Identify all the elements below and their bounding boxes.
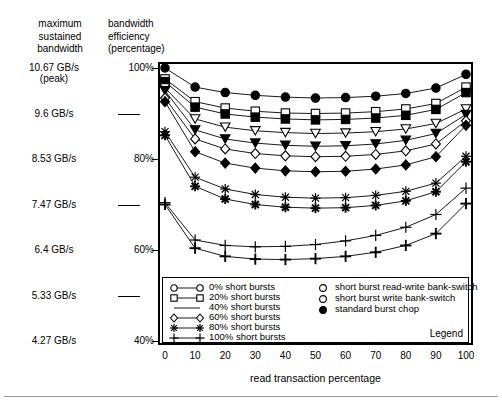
legend: 0% short bursts20% short bursts40% short… [162, 277, 469, 343]
x-axis-tick-label: 0 [150, 350, 180, 361]
series-marker [341, 93, 349, 101]
series-marker [250, 200, 260, 210]
series-marker [161, 64, 169, 72]
series-marker [371, 190, 381, 200]
series-marker [280, 241, 291, 252]
legend-marker-filled-circle-icon [315, 305, 331, 315]
series-marker [160, 130, 170, 140]
series-marker [371, 200, 381, 210]
series-marker [191, 103, 199, 111]
series-marker [402, 89, 410, 97]
series-marker [462, 88, 470, 96]
header-right-label: bandwidth efficiency (percentage) [108, 18, 200, 56]
series-marker [221, 144, 230, 154]
series-marker [431, 129, 441, 137]
x-axis-tick-label: 40 [270, 350, 300, 361]
series-marker [311, 193, 321, 203]
legend-marker-diamond-icon [167, 313, 207, 323]
x-axis-tick-label: 10 [180, 350, 210, 361]
series-marker [160, 199, 171, 210]
series-marker [462, 70, 470, 78]
series-marker [311, 94, 319, 102]
x-axis-tick-label: 60 [331, 350, 361, 361]
bandwidth-axis-sublabel: (peak) [6, 73, 102, 84]
legend-title: Legend [430, 328, 463, 339]
series-marker [250, 189, 260, 199]
series-marker [370, 247, 381, 258]
series-marker [281, 151, 290, 161]
series-marker [250, 241, 261, 252]
series-marker [311, 116, 319, 124]
series-marker [311, 203, 321, 213]
percent-axis-label: 100% [114, 62, 154, 73]
series-marker [340, 251, 351, 262]
percent-axis-label: 40% [114, 335, 154, 346]
series-marker [190, 181, 200, 191]
series-marker [371, 164, 380, 174]
x-axis-tick-label: 30 [240, 350, 270, 361]
series-marker [190, 126, 200, 134]
series-marker [220, 194, 230, 204]
series-marker [431, 187, 441, 197]
series-marker [431, 139, 440, 149]
series-marker [221, 158, 230, 168]
legend-item-label: standard burst chop [335, 304, 419, 314]
series-marker [341, 166, 350, 176]
series-marker [372, 114, 380, 122]
series-marker [280, 254, 291, 265]
series-marker [220, 240, 231, 251]
series-marker [281, 93, 289, 101]
series-marker [341, 193, 351, 203]
x-axis-title: read transaction percentage [158, 372, 473, 384]
series-marker [370, 230, 381, 241]
series-marker [251, 91, 259, 99]
bandwidth-axis-tick [118, 205, 140, 206]
series-marker [220, 135, 230, 143]
series-marker [401, 160, 410, 170]
series-marker [251, 163, 260, 173]
bandwidth-axis-label: 5.33 GB/s [6, 290, 102, 301]
series-marker [400, 240, 411, 251]
x-axis-tick-label: 100 [451, 350, 481, 361]
series-marker [190, 115, 200, 123]
bandwidth-axis-tick [118, 114, 140, 115]
bandwidth-axis-label: 9.6 GB/s [6, 108, 102, 119]
series-marker [341, 203, 351, 213]
x-axis-tick-label: 80 [391, 350, 421, 361]
series-marker [281, 115, 289, 123]
series-marker [251, 149, 260, 159]
series-marker [401, 146, 410, 156]
series-marker [311, 167, 320, 177]
legend-marker-plus-icon [167, 333, 207, 343]
series-marker [341, 151, 350, 161]
series-marker [400, 222, 411, 233]
series-marker [432, 84, 440, 92]
bandwidth-axis-label: 7.47 GB/s [6, 199, 102, 210]
series-marker [340, 235, 351, 246]
series-marker [191, 83, 199, 91]
series-marker [372, 92, 380, 100]
legend-item-label: short burst write bank-switch [335, 293, 455, 303]
x-axis-tick-label: 50 [301, 350, 331, 361]
series-marker [432, 105, 440, 113]
legend-marker-square-icon [167, 293, 207, 303]
legend-marker-asterisk-icon [167, 323, 207, 333]
series-marker [401, 186, 411, 196]
series-marker [371, 149, 380, 159]
legend-marker-triangle-down-icon [167, 303, 207, 313]
x-axis-tick-label: 70 [361, 350, 391, 361]
series-marker [280, 202, 290, 212]
legend-item-label: 100% short bursts [209, 332, 286, 342]
bandwidth-axis-label: 10.67 GB/s [6, 62, 102, 73]
series-marker [280, 192, 290, 202]
bandwidth-axis-label: 6.4 GB/s [6, 244, 102, 255]
series-marker [221, 88, 229, 96]
series-marker [401, 196, 411, 206]
series-marker [431, 119, 441, 127]
legend-marker-open-circle-icon [315, 294, 331, 304]
series-marker [281, 166, 290, 176]
x-axis-tick-label: 90 [421, 350, 451, 361]
bandwidth-axis-label: 8.53 GB/s [6, 153, 102, 164]
series-marker [191, 147, 200, 157]
percent-axis-label: 80% [114, 153, 154, 164]
